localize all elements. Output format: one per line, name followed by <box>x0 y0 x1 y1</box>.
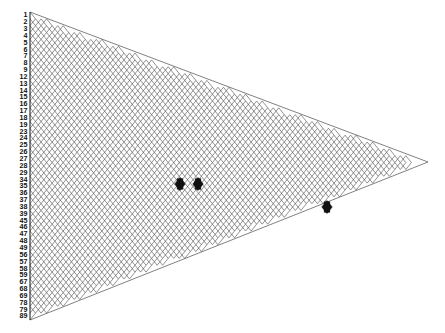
mesh-diagonal-up <box>146 265 152 272</box>
mesh-diagonal-down <box>262 101 268 108</box>
triangle-lower-edge <box>30 162 428 320</box>
mesh-diagonal-up <box>284 210 290 217</box>
mesh-diagonal-down <box>63 26 69 33</box>
lattice-canvas: 1234567891213141516171819232425262728293… <box>0 0 445 333</box>
mesh-diagonal-up <box>163 258 169 265</box>
mesh-diagonal-down <box>135 53 141 60</box>
marked-cell-group <box>175 177 333 213</box>
mesh-diagonal-down <box>80 33 86 40</box>
marked-cell-core <box>177 179 183 189</box>
mesh-diagonal-down <box>152 60 158 67</box>
marked-cell-core <box>195 179 201 189</box>
mesh-line-group <box>30 12 411 320</box>
mesh-diagonal-down <box>389 149 395 156</box>
triangular-lattice-plot: 1234567891213141516171819232425262728293… <box>0 0 445 333</box>
axis-tick-label: 89 <box>20 312 28 320</box>
mesh-diagonal-down <box>279 108 285 115</box>
mesh-diagonal-down <box>190 74 196 81</box>
mesh-diagonal-up <box>301 204 307 211</box>
mesh-diagonal-up <box>406 163 412 170</box>
mesh-diagonal-down <box>207 80 213 87</box>
mesh-diagonal-down <box>406 156 412 163</box>
mesh-diagonal-up <box>113 279 119 286</box>
axis-tick-label-group: 1234567891213141516171819232425262728293… <box>20 11 28 320</box>
marked-cell-core <box>324 202 330 212</box>
mesh-diagonal-up <box>130 272 136 279</box>
triangle-upper-edge <box>30 12 428 162</box>
mesh-diagonal-up <box>268 217 274 224</box>
mesh-diagonal-down <box>317 122 323 129</box>
mesh-diagonal-down <box>334 128 340 135</box>
